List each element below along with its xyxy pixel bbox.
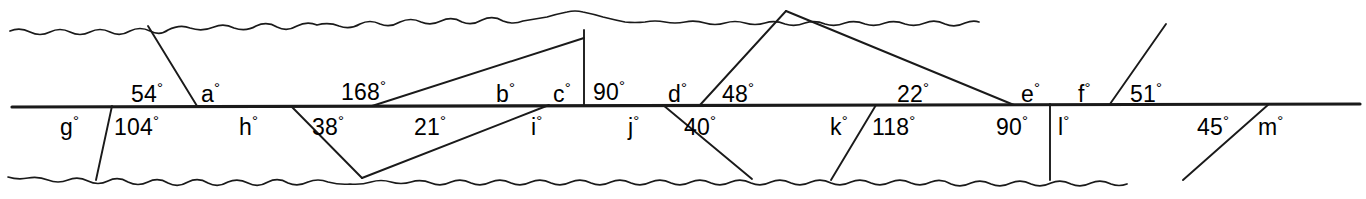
degree-icon: ° bbox=[1063, 112, 1069, 129]
angle-label-104: 104° bbox=[114, 113, 159, 139]
degree-icon: ° bbox=[338, 112, 344, 129]
transversal-g-104 bbox=[96, 106, 112, 180]
angle-label-40: 40° bbox=[684, 113, 716, 139]
degree-icon: ° bbox=[157, 79, 163, 96]
angle-label-f: f° bbox=[1078, 80, 1091, 106]
degree-icon: ° bbox=[619, 77, 625, 94]
angle-label-22: 22° bbox=[897, 80, 929, 106]
degree-icon: ° bbox=[633, 112, 639, 129]
degree-icon: ° bbox=[509, 79, 515, 96]
degree-icon: ° bbox=[1156, 79, 1162, 96]
transversal-21-i bbox=[362, 105, 549, 178]
angle-label-k: k° bbox=[830, 113, 848, 139]
angle-label-21: 21° bbox=[414, 113, 446, 139]
angle-label-l: l° bbox=[1058, 113, 1070, 139]
angle-label-j: j° bbox=[628, 113, 640, 139]
degree-icon: ° bbox=[681, 79, 687, 96]
angle-label-90-top: 90° bbox=[593, 78, 625, 104]
angle-label-a: a° bbox=[201, 80, 220, 106]
degree-icon: ° bbox=[710, 112, 716, 129]
angle-label-e: e° bbox=[1021, 80, 1040, 106]
degree-icon: ° bbox=[565, 79, 571, 96]
angle-label-m: m° bbox=[1258, 113, 1284, 139]
bottom-torn-edge bbox=[8, 177, 1127, 186]
angle-label-51: 51° bbox=[1130, 80, 1162, 106]
degree-icon: ° bbox=[1085, 79, 1091, 96]
degree-icon: ° bbox=[440, 112, 446, 129]
angle-label-48: 48° bbox=[722, 80, 754, 106]
angle-label-d: d° bbox=[668, 80, 687, 106]
degree-icon: ° bbox=[536, 112, 542, 129]
angle-label-54: 54° bbox=[131, 80, 163, 106]
degree-icon: ° bbox=[153, 112, 159, 129]
degree-icon: ° bbox=[923, 79, 929, 96]
degree-icon: ° bbox=[842, 112, 848, 129]
angle-label-i: i° bbox=[531, 113, 543, 139]
angle-label-118: 118° bbox=[872, 113, 915, 139]
angle-label-45: 45° bbox=[1197, 113, 1229, 139]
geometry-diagram: 54° a° 168° b° c° 90° d° 48° 22° e° f° 5… bbox=[0, 0, 1366, 199]
degree-icon: ° bbox=[1034, 79, 1040, 96]
angle-label-g: g° bbox=[60, 113, 79, 139]
degree-icon: ° bbox=[909, 112, 915, 129]
angle-label-38: 38° bbox=[312, 113, 344, 139]
degree-icon: ° bbox=[252, 112, 258, 129]
degree-icon: ° bbox=[1223, 112, 1229, 129]
angle-label-90-bottom: 90° bbox=[996, 113, 1028, 139]
degree-icon: ° bbox=[1022, 112, 1028, 129]
angle-label-b: b° bbox=[496, 80, 515, 106]
angle-label-h: h° bbox=[239, 113, 258, 139]
degree-icon: ° bbox=[214, 79, 220, 96]
degree-icon: ° bbox=[380, 77, 386, 94]
degree-icon: ° bbox=[1277, 112, 1283, 129]
angle-label-c: c° bbox=[553, 80, 571, 106]
angle-label-168: 168° bbox=[341, 78, 386, 104]
degree-icon: ° bbox=[73, 112, 79, 129]
degree-icon: ° bbox=[748, 79, 754, 96]
